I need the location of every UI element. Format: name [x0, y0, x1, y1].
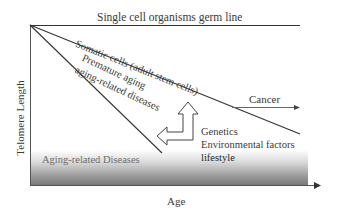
- cancer-label: Cancer: [249, 93, 280, 105]
- diagram-lines: [0, 0, 338, 213]
- y-axis-label: Telomere Length: [14, 80, 26, 155]
- genetics-label: Genetics: [201, 126, 238, 138]
- germ-line-label: Single cell organisms germ line: [97, 11, 242, 23]
- cancer-arrowhead-icon: [294, 105, 300, 110]
- telomere-diagram: Single cell organisms germ line Somatic …: [0, 0, 338, 213]
- aging-diseases-region-label: Aging-related Diseases: [42, 154, 140, 166]
- lifestyle-label: lifestyle: [201, 152, 235, 164]
- x-axis-label: Age: [167, 195, 185, 207]
- up-left-arrow-icon: [157, 102, 198, 145]
- x-axis-arrowhead-icon: [314, 182, 321, 189]
- environmental-factors-label: Environmental factors: [201, 139, 295, 151]
